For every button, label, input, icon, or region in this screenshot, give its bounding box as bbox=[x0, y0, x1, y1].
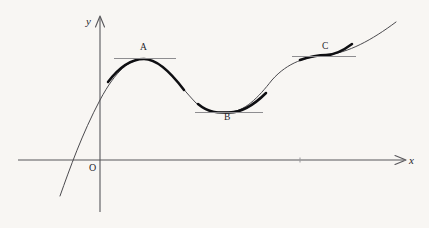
axes-group bbox=[18, 16, 406, 212]
point-label-c: C bbox=[322, 42, 328, 52]
curve-diagram-figure: y x O A B C bbox=[0, 0, 429, 228]
function-curve-group bbox=[60, 22, 396, 196]
bold-arc-at-a bbox=[108, 59, 184, 90]
origin-label: O bbox=[89, 163, 96, 173]
diagram-canvas bbox=[0, 0, 429, 228]
x-axis-label: x bbox=[409, 155, 414, 166]
point-label-b: B bbox=[224, 113, 230, 123]
point-label-a: A bbox=[140, 43, 147, 53]
tangent-lines-group bbox=[114, 57, 356, 113]
bold-arc-at-b bbox=[198, 93, 266, 113]
y-axis-label: y bbox=[86, 16, 91, 27]
